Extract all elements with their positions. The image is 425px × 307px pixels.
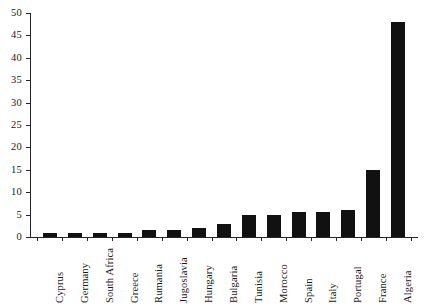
bar [267,215,281,237]
x-tick-label: Germany [79,263,90,303]
x-tick-label: Algeria [402,270,413,303]
y-tick-label: 25 [0,118,22,131]
y-tick-label: 15 [0,163,22,176]
x-tick-label: Cyprus [54,272,65,303]
x-tick-label: Spain [303,278,314,303]
x-axis-labels: CyprusGermanySouth AfricaGreeceRumaniaJu… [30,241,418,307]
bar-chart: 05101520253035404550 CyprusGermanySouth … [0,0,425,307]
x-tick-label: Tunisia [253,271,264,303]
y-tick-label: 30 [0,96,22,109]
x-tick-label: Greece [129,272,140,303]
y-tick-label: 35 [0,73,22,86]
bar [192,228,206,237]
bar [118,233,132,237]
x-tick-label: Jugoslavia [178,257,189,303]
bar [167,230,181,237]
bar [142,230,156,237]
x-tick-label: Hungary [203,265,214,303]
bar [217,224,231,237]
bar [242,215,256,237]
bar [68,233,82,237]
y-tick-label: 0 [0,230,22,243]
y-tick-label: 10 [0,185,22,198]
x-tick-label: Portugal [352,266,363,303]
x-tick-label: Bulgaria [228,266,239,303]
x-tick-label: South Africa [104,248,115,303]
y-tick-mark [26,237,30,238]
bar [316,212,330,237]
bars-group [30,13,418,237]
x-tick-label: Rumania [153,264,164,303]
y-tick-label: 50 [0,6,22,19]
y-tick-label: 20 [0,140,22,153]
bar [391,22,405,237]
y-tick-label: 5 [0,208,22,221]
bar [366,170,380,237]
y-tick-label: 45 [0,28,22,41]
bar [292,212,306,237]
x-tick-label: Italy [327,283,338,303]
x-tick-label: France [377,274,388,303]
bar [43,233,57,237]
bar [93,233,107,237]
y-tick-label: 40 [0,51,22,64]
bar [341,210,355,237]
x-tick-label: Morocco [278,264,289,303]
